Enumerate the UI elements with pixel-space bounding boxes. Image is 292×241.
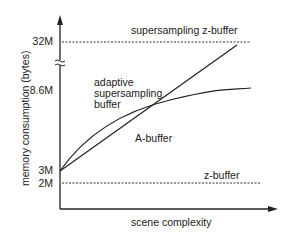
x-axis-label: scene complexity xyxy=(131,217,212,228)
y-axis-label: memory consumption (bytes) xyxy=(19,51,31,186)
y-axis-arrow-icon xyxy=(57,15,63,25)
label-z-buffer: z-buffer xyxy=(204,170,239,181)
a-buffer-line xyxy=(60,45,237,171)
label-supersampling-z-buffer: supersampling z-buffer xyxy=(131,25,238,36)
label-adaptive-line3: buffer xyxy=(94,99,121,110)
x-axis-arrow-icon xyxy=(268,206,278,212)
adaptive-supersampling-curve xyxy=(60,88,251,171)
label-a-buffer: A-buffer xyxy=(135,133,172,144)
y-tick-32m: 32M xyxy=(23,36,53,47)
